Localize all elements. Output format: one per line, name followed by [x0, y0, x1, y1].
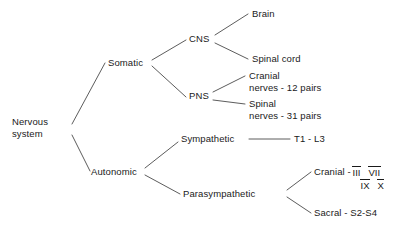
edge-autonomic-sympathetic [145, 142, 178, 168]
nervous-system-diagram: Nervous system Somatic Autonomic CNS PNS… [0, 0, 396, 236]
node-cranial-nerves-line1: Cranial [249, 70, 280, 81]
node-cns: CNS [189, 33, 209, 45]
node-sacral: Sacral - S2-S4 [314, 207, 377, 219]
edge-pns-spinal-nerves [213, 100, 245, 104]
node-cranial-numerals: IIIVII IXX [352, 166, 388, 191]
node-cranial-nerves-line2: nerves - 12 pairs [249, 82, 321, 93]
edge-root-autonomic [72, 135, 90, 171]
numeral-ix: IX [360, 179, 370, 191]
edge-root-somatic [72, 63, 105, 124]
node-cranial-label: Cranial - [314, 166, 351, 178]
edge-somatic-pns [152, 66, 186, 97]
edge-pns-cranial-nerves [213, 76, 245, 92]
numeral-x: X [377, 179, 384, 191]
edge-autonomic-parasympathetic [145, 175, 180, 194]
node-cranial-nerves: Cranial nerves - 12 pairs [249, 70, 369, 93]
numeral-vii: VII [368, 166, 381, 178]
node-spinal-nerves: Spinal nerves - 31 pairs [249, 98, 369, 121]
node-nervous-system-line2: system [12, 128, 43, 139]
node-parasympathetic: Parasympathetic [183, 188, 255, 200]
node-brain: Brain [252, 8, 275, 20]
edge-cns-brain [215, 14, 248, 35]
edge-cns-spinal-cord [215, 43, 248, 59]
node-somatic: Somatic [108, 57, 143, 69]
node-pns: PNS [189, 90, 209, 102]
node-spinal-cord: Spinal cord [252, 53, 301, 65]
node-sympathetic: Sympathetic [181, 133, 234, 145]
edge-somatic-cns [152, 40, 186, 60]
node-spinal-nerves-line2: nerves - 31 pairs [249, 110, 321, 121]
node-nervous-system-line1: Nervous [12, 116, 48, 127]
edge-parasympathetic-sacral [287, 197, 311, 213]
edge-parasympathetic-cranial [287, 172, 311, 190]
node-sympathetic-value: T1 - L3 [294, 133, 325, 145]
node-spinal-nerves-line1: Spinal [249, 98, 276, 109]
numeral-iii: III [352, 166, 361, 178]
cranial-numerals-row-2: IXX [360, 179, 388, 192]
node-nervous-system: Nervous system [12, 116, 72, 139]
node-autonomic: Autonomic [91, 166, 137, 178]
